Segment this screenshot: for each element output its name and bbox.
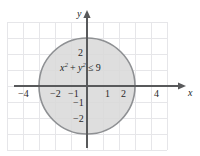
x-tick-label--4: −4 bbox=[18, 89, 29, 99]
x-axis-arrow bbox=[178, 82, 186, 89]
y-axis-arrow bbox=[83, 10, 90, 18]
inequality-annotation: x2+y2≤9 bbox=[60, 63, 101, 73]
equation-relation: ≤ bbox=[86, 62, 96, 73]
graph-figure: y x −4 −2 −1 1 2 4 2 −1 −2 x2+y2≤9 bbox=[0, 0, 200, 156]
x-tick-label--2: −2 bbox=[50, 89, 61, 99]
y-axis-label: y bbox=[77, 9, 81, 19]
y-tick-label--1: −1 bbox=[73, 98, 84, 108]
equation-plus: + bbox=[68, 62, 78, 73]
x-tick-label-1: 1 bbox=[105, 89, 110, 99]
x-axis-label: x bbox=[188, 88, 192, 98]
x-tick-label-4: 4 bbox=[154, 89, 159, 99]
coordinate-plane bbox=[0, 0, 200, 156]
equation-rhs: 9 bbox=[96, 62, 101, 73]
y-tick-label--2: −2 bbox=[73, 114, 84, 124]
y-tick-label-2: 2 bbox=[78, 48, 83, 58]
x-tick-label-2: 2 bbox=[121, 89, 126, 99]
